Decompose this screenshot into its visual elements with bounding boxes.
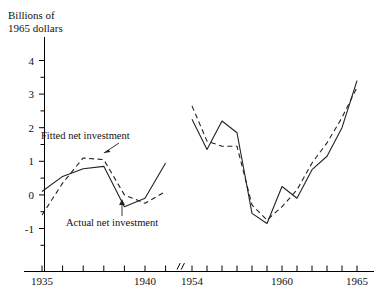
y-tick-label-3: 3 (29, 88, 35, 100)
series-actual-net-investment-left (42, 163, 166, 207)
x-tick-label-1935: 1935 (31, 275, 54, 287)
y-axis-title: Billions of 1965 dollars (8, 9, 63, 34)
fitted-net-investment-arrowhead (104, 149, 111, 153)
series-fitted-net-investment-right (192, 87, 357, 220)
x-axis-break-icon (177, 263, 184, 269)
x-tick-label-1954: 1954 (181, 275, 204, 287)
plot-area (42, 81, 357, 224)
y-tick-label-neg1: -1 (25, 223, 34, 235)
x-axis-ticks-right-panel (192, 266, 357, 272)
y-tick-label-1: 1 (29, 155, 35, 167)
actual-net-investment-arrowhead (119, 199, 125, 205)
y-tick-label-2: 2 (29, 122, 35, 134)
annotation-fitted-net-investment: Fitted net investment (41, 130, 130, 153)
x-axis-ticks-left-panel (42, 266, 166, 272)
y-axis-title-line1: Billions of (8, 9, 55, 21)
fitted-net-investment-label: Fitted net investment (41, 130, 130, 141)
investment-line-chart: 4 3 2 1 0 -1 Billions of 1965 dollars (0, 0, 392, 302)
y-axis-title-line2: 1965 dollars (8, 22, 63, 34)
x-tick-label-1965: 1965 (346, 275, 369, 287)
x-tick-label-1960: 1960 (271, 275, 294, 287)
series-actual-net-investment-right (192, 81, 357, 224)
x-axis: 1935 1940 1954 1960 1965 (24, 263, 374, 287)
y-tick-label-4: 4 (29, 55, 35, 67)
x-tick-label-1940: 1940 (134, 275, 157, 287)
chart-canvas: 4 3 2 1 0 -1 Billions of 1965 dollars (0, 0, 392, 302)
y-axis: 4 3 2 1 0 -1 (25, 37, 45, 272)
y-tick-label-0: 0 (29, 189, 35, 201)
actual-net-investment-label: Actual net investment (66, 217, 158, 228)
